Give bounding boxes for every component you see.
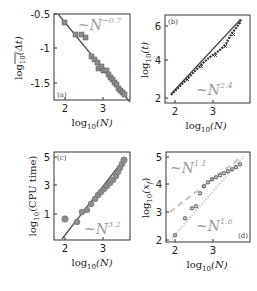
panel-c-ytick: 1: [44, 209, 50, 220]
panel-c-xtick: 3: [100, 243, 106, 254]
panel-b-ylabel: log10(t): [139, 42, 153, 78]
panel-b-cross-markers: [186, 21, 241, 81]
panel-c-ytick: 5: [44, 152, 50, 163]
panel-c-label: (c): [57, 154, 67, 162]
panel-a-ytick: -1: [40, 43, 50, 54]
panel-a-xtick: 3: [100, 103, 106, 114]
panel-d-ytick: 4: [156, 179, 162, 190]
panel-a-annotation: ~N−0.7: [78, 16, 122, 33]
panel-b: 2 4 6 2 3 ~N2.4 (b) log10(N) log10(t): [139, 15, 250, 134]
panel-d-ylabel: log10(xf): [140, 178, 154, 219]
panel-a-label: (a): [57, 91, 67, 99]
panel-b-label: (b): [168, 18, 178, 26]
panel-b-xtick: 3: [210, 106, 216, 117]
panel-d-annotation-upper: ~N1.1: [170, 159, 207, 176]
panel-c-ytick: 3: [44, 180, 50, 191]
panel-c-xtick: 2: [62, 243, 68, 254]
panel-b-ytick: 6: [155, 21, 161, 32]
panel-d-xtick: 3: [210, 245, 216, 256]
panel-a-xlabel: log10(N): [71, 117, 112, 131]
panel-d-xtick: 2: [172, 245, 178, 256]
panel-c-data-points: [62, 157, 128, 225]
panel-a-xtick: 2: [62, 103, 68, 114]
panel-b-xtick: 2: [172, 106, 178, 117]
panel-a: -0.5 -1 -1.5 2 3 ~N−0.7 (a) log10(N) log…: [13, 9, 130, 131]
panel-b-ytick: 4: [155, 55, 161, 66]
panel-c-ylabel: log10(CPU time): [27, 156, 41, 237]
panel-d-ytick: 3: [156, 207, 162, 218]
panel-d: 2 3 4 5 2 3 ~N1.1 ~N1.6 (d) l: [140, 152, 250, 273]
panel-c: 1 3 5 2 3 ~N3.2 (c) log10(N) log10(CPU t…: [27, 152, 130, 271]
figure: -0.5 -1 -1.5 2 3 ~N−0.7 (a) log10(N) log…: [0, 0, 257, 291]
panel-d-ytick: 5: [156, 152, 162, 163]
panel-d-label: (d): [238, 232, 248, 240]
panel-b-annotation: ~N2.4: [196, 81, 233, 98]
panel-a-ytick: -1.5: [30, 78, 50, 89]
panel-a-ytick: -0.5: [30, 9, 50, 20]
panel-c-xlabel: log10(N): [71, 257, 112, 271]
panel-b-ytick: 2: [155, 93, 161, 104]
panel-d-ytick: 2: [156, 235, 162, 246]
panel-d-annotation-lower: ~N1.6: [196, 217, 233, 234]
panel-c-annotation: ~N3.2: [84, 220, 121, 237]
panel-d-xlabel: log10(N): [186, 259, 227, 273]
panel-b-xlabel: log10(N): [185, 120, 226, 134]
